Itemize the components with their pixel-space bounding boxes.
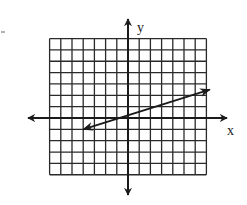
x-axis-label: x xyxy=(227,123,234,138)
y-axis-label: y xyxy=(137,20,144,35)
graph-svg: y x xyxy=(0,0,247,205)
coordinate-plane-figure: y x xyxy=(0,0,247,205)
